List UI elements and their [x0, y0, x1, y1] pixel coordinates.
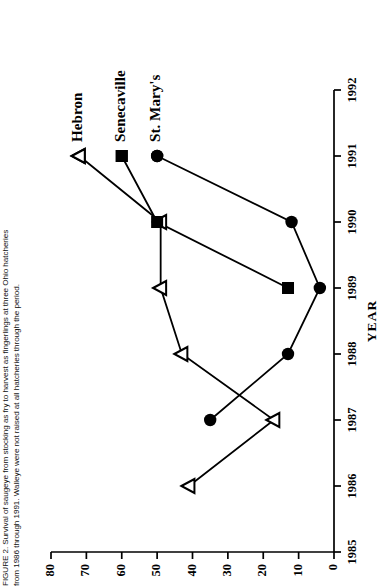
series-line-st-mary-s — [157, 156, 320, 420]
y-axis-tick-label: 80 — [43, 564, 58, 586]
legend-marker-senecaville — [116, 150, 128, 162]
legend-marker-hebron — [72, 149, 85, 163]
x-axis-tick-label: 1992 — [345, 68, 360, 112]
y-axis-tick-label: 0 — [326, 564, 341, 586]
y-axis-tick-label: 70 — [78, 564, 93, 586]
x-axis-tick-label: 1989 — [345, 266, 360, 310]
data-point-st-mary-s — [285, 216, 297, 228]
series-line-hebron — [79, 156, 274, 486]
chart-data-layer — [72, 149, 326, 493]
x-axis-tick-label: 1988 — [345, 332, 360, 376]
y-axis-tick-label: 10 — [291, 564, 306, 586]
y-axis-tick-label: 30 — [220, 564, 235, 586]
data-point-hebron — [153, 281, 166, 295]
x-axis-title: YEAR — [364, 281, 380, 361]
data-point-senecaville — [151, 216, 163, 228]
legend-label-senecaville: Senecaville — [111, 70, 129, 142]
x-axis-tick-label: 1990 — [345, 200, 360, 244]
figure-caption-line-2: from 1986 through 1991. Walleye were not… — [11, 0, 22, 586]
figure-plot-area: 1985198619871988198919901991199201020304… — [36, 0, 382, 586]
x-axis-tick-label: 1991 — [345, 134, 360, 178]
data-point-st-mary-s — [282, 348, 294, 360]
chart-axes — [51, 90, 341, 559]
x-axis-tick-label: 1986 — [345, 464, 360, 508]
legend-marker-st-mary-s — [151, 150, 163, 162]
x-axis-tick-label: 1985 — [345, 530, 360, 574]
chart-legend-markers — [72, 149, 164, 163]
figure-caption-line-1: FIGURE 2. Survival of saugeye from stock… — [0, 0, 11, 586]
y-axis-tick-label: 60 — [114, 564, 129, 586]
series-line-senecaville — [122, 156, 288, 288]
figure-caption: FIGURE 2. Survival of saugeye from stock… — [0, 0, 34, 586]
legend-label-hebron: Hebron — [68, 92, 86, 142]
chart-svg — [36, 0, 382, 586]
data-point-st-mary-s — [204, 414, 216, 426]
data-point-senecaville — [282, 282, 294, 294]
x-axis-tick-label: 1987 — [345, 398, 360, 442]
y-axis-tick-label: 40 — [185, 564, 200, 586]
y-axis-tick-label: 20 — [255, 564, 270, 586]
data-point-hebron — [181, 479, 194, 493]
legend-label-st-mary-s: St. Mary's — [146, 75, 164, 143]
y-axis-tick-label: 50 — [149, 564, 164, 586]
data-point-st-mary-s — [314, 282, 326, 294]
